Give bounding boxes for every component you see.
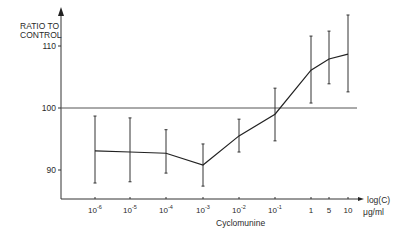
y-axis-arrow-icon xyxy=(58,7,64,16)
x-axis-arrow-icon xyxy=(358,197,364,201)
x-ticks: 10-610-510-410-310-210-11510 xyxy=(88,197,353,215)
x-tick-label: 10-3 xyxy=(196,204,210,215)
data-line xyxy=(95,54,348,165)
y-tick-label: 90 xyxy=(47,165,57,175)
chart: 90100110 10-610-510-410-310-210-11510 RA… xyxy=(0,0,409,240)
x-tick-label: 1 xyxy=(309,206,314,215)
x-axis-unit-line1: log(C) xyxy=(367,195,390,205)
x-axis-label: Cyclomunine xyxy=(216,218,265,228)
x-tick-label: 10-2 xyxy=(232,204,246,215)
x-tick-label: 10-5 xyxy=(123,204,137,215)
y-ticks: 90100110 xyxy=(42,41,61,175)
y-axis-label-line2: CONTROL xyxy=(20,30,62,40)
y-tick-label: 110 xyxy=(42,41,56,51)
x-tick-label: 10-6 xyxy=(88,204,102,215)
y-tick-label: 100 xyxy=(42,103,56,113)
x-tick-label: 10-4 xyxy=(159,204,173,215)
x-axis-unit-line2: μg/ml xyxy=(363,207,384,217)
error-bars xyxy=(94,15,350,186)
axes xyxy=(58,7,364,201)
x-tick-label: 10 xyxy=(344,206,353,215)
x-tick-label: 5 xyxy=(327,206,332,215)
x-tick-label: 10-1 xyxy=(268,204,282,215)
